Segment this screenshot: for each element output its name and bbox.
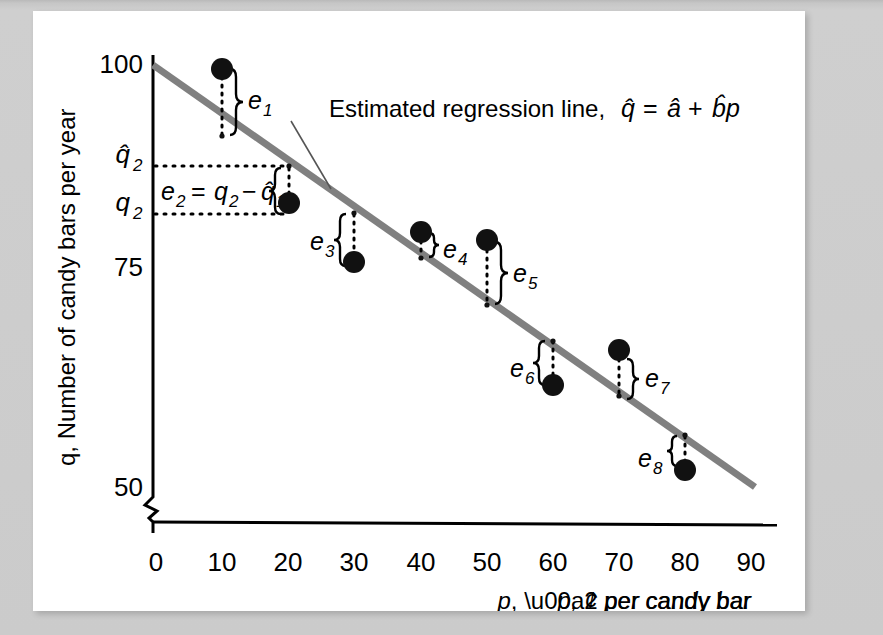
y-tick-label-50: 50: [114, 472, 143, 502]
y-tick-label-qhat2: q̂ 2: [116, 139, 143, 175]
residual-e5: e 5: [487, 242, 538, 304]
y-tick-label-100: 100: [100, 49, 143, 79]
residual-e1-sub: 1: [263, 101, 272, 120]
y-axis-title-group: q, Number of candy bars per year: [53, 108, 80, 466]
line-marker-6: [550, 338, 555, 343]
residual-e1-label: e: [248, 86, 262, 114]
eq-q-sub: 2: [228, 192, 239, 211]
line-marker-1: [219, 133, 224, 138]
scatter-plot-regression-residuals: 100 75 50 q̂ 2 q 2 q, Number of candy ba…: [33, 11, 805, 611]
regression-label-text: Estimated regression line,: [329, 95, 605, 122]
line-marker-4: [418, 255, 423, 260]
regression-line: [153, 65, 755, 487]
residual-e6-bracket: [533, 341, 545, 385]
regression-line-label: Estimated regression line,: [329, 95, 605, 122]
x-tick-labels: 0 10 20 30 40 50 60 70 80 90: [149, 547, 766, 577]
q2-base: q: [116, 187, 131, 217]
residual-e4-sub: 4: [458, 250, 467, 269]
x-tick-label-30: 30: [340, 547, 369, 577]
eqn-p: p: [725, 94, 740, 122]
x-tick-label-0: 0: [149, 547, 163, 577]
residual-e6-label: e: [510, 354, 524, 382]
eq-e-sub: 2: [175, 192, 186, 211]
line-marker-2: [286, 163, 291, 168]
x-tick-label-70: 70: [605, 547, 634, 577]
eqn-bhat: b̂: [712, 94, 726, 122]
data-point-5[interactable]: [476, 229, 498, 251]
x-axis-title-text: p, ¢ per candy bar: [557, 587, 752, 611]
residual-e7-label: e: [645, 364, 659, 392]
residual-2-equation: e 2 = q 2 − q̂ 1: [161, 177, 285, 211]
eqn-equals: =: [643, 94, 658, 122]
data-point-8[interactable]: [674, 459, 696, 481]
eqn-ahat: â: [667, 94, 681, 122]
x-tick-label-20: 20: [274, 547, 303, 577]
eq-e: e: [161, 177, 175, 205]
y-axis-break-icon: [145, 489, 157, 533]
x-tick-label-60: 60: [539, 547, 568, 577]
data-point-1[interactable]: [211, 58, 233, 80]
data-point-6[interactable]: [542, 374, 564, 396]
x-axis-title-group: p, \u00a2 per candy bar p, ¢ per candy b…: [496, 587, 752, 611]
y-tick-label-q2: q 2: [116, 187, 143, 223]
data-point-7[interactable]: [608, 339, 630, 361]
qhat2-sub: 2: [132, 156, 143, 175]
residual-e8-bracket: [667, 436, 677, 466]
residual-e7-sub: 7: [660, 379, 670, 398]
x-tick-label-80: 80: [671, 547, 700, 577]
data-point-2[interactable]: [278, 192, 300, 214]
qhat2-base: q̂: [116, 139, 131, 169]
residual-e5-bracket: [495, 242, 508, 304]
y-axis-title: q, Number of candy bars per year: [53, 108, 80, 466]
line-marker-7: [616, 393, 621, 398]
data-point-3[interactable]: [343, 251, 365, 273]
residual-e3-label: e: [310, 227, 324, 255]
x-tick-label-50: 50: [473, 547, 502, 577]
data-point-4[interactable]: [410, 221, 432, 243]
residual-e6-sub: 6: [525, 369, 535, 388]
x-tick-label-10: 10: [208, 547, 237, 577]
figure-panel: 100 75 50 q̂ 2 q 2 q, Number of candy ba…: [33, 11, 805, 611]
eqn-qhat: q̂: [621, 94, 635, 122]
line-marker-5: [484, 302, 489, 307]
residual-e1: e 1: [222, 69, 272, 135]
eq-q: q: [214, 177, 228, 205]
eq-minus: −: [242, 177, 257, 205]
eqn-plus: +: [688, 94, 703, 122]
regression-line-callout: Estimated regression line, q̂ = â + b̂ …: [291, 94, 740, 189]
y-tick-labels: 100 75 50 q̂ 2 q 2: [100, 49, 143, 502]
line-marker-8: [682, 432, 687, 437]
residual-e4-label: e: [443, 235, 457, 263]
residual-e3-sub: 3: [325, 242, 335, 261]
eq-equals: =: [191, 177, 206, 205]
residual-e8-sub: 8: [653, 459, 663, 478]
regression-equation: q̂ = â + b̂ p: [621, 94, 740, 122]
residual-e5-sub: 5: [528, 274, 538, 293]
residual-e8-label: e: [638, 444, 652, 472]
q2-sub: 2: [132, 204, 143, 223]
residual-e7-bracket: [627, 359, 639, 399]
y-tick-label-75: 75: [114, 252, 143, 282]
line-marker-3: [351, 210, 356, 215]
residual-e5-label: e: [513, 259, 527, 287]
x-tick-label-40: 40: [407, 547, 436, 577]
x-tick-label-90: 90: [737, 547, 766, 577]
x-axis-line: [153, 522, 777, 525]
